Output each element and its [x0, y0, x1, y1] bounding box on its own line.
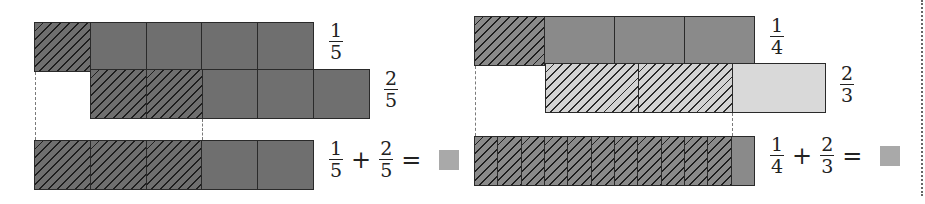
shaded-cell: [708, 137, 731, 185]
left-row1-bar: [34, 22, 314, 72]
cell: [733, 64, 825, 112]
fraction-label-1-4: 1 4: [770, 16, 784, 57]
cell: [545, 17, 615, 65]
shaded-cell: [35, 141, 91, 189]
shaded-cell: [546, 64, 639, 112]
denominator: 3: [820, 157, 834, 176]
shaded-cell: [475, 17, 545, 65]
numerator: 2: [384, 69, 398, 88]
left-equation: 1 5 + 2 5 =: [329, 139, 459, 180]
left-row2-bar: [90, 69, 370, 119]
shaded-cell: [522, 137, 545, 185]
fraction-label-1-5: 1 5: [329, 21, 343, 62]
cell: [147, 23, 203, 71]
cell: [732, 137, 754, 185]
addend-2: 2 3: [820, 135, 834, 176]
alignment-guide: [732, 113, 733, 136]
cell: [202, 23, 258, 71]
denominator: 5: [329, 43, 343, 62]
shaded-cell: [91, 70, 147, 118]
shaded-cell: [592, 137, 615, 185]
numerator: 2: [820, 135, 834, 154]
numerator: 1: [770, 16, 784, 35]
addend-1: 1 4: [770, 135, 784, 176]
alignment-guide: [475, 66, 476, 136]
shaded-cell: [545, 137, 568, 185]
right-equation: 1 4 + 2 3 =: [770, 135, 900, 176]
addend-2: 2 5: [379, 139, 393, 180]
numerator: 1: [329, 139, 343, 158]
shaded-cell: [639, 64, 732, 112]
denominator: 5: [379, 161, 393, 180]
fraction-label-2-3: 2 3: [840, 64, 854, 105]
shaded-cell: [35, 23, 91, 71]
left-sum-bar: [34, 140, 314, 190]
right-row1-bar: [474, 16, 755, 66]
shaded-cell: [475, 137, 498, 185]
fraction-label-2-5: 2 5: [384, 69, 398, 110]
equals-sign: =: [842, 144, 862, 168]
denominator: 3: [840, 86, 854, 105]
plus-sign: +: [792, 144, 812, 168]
alignment-guide: [35, 72, 36, 140]
shaded-cell: [615, 137, 638, 185]
cell: [258, 23, 313, 71]
denominator: 5: [384, 91, 398, 110]
shaded-cell: [147, 141, 203, 189]
numerator: 2: [379, 139, 393, 158]
plus-sign: +: [351, 148, 371, 172]
numerator: 1: [329, 21, 343, 40]
cell: [203, 70, 259, 118]
cell: [258, 70, 314, 118]
shaded-cell: [147, 70, 203, 118]
shaded-cell: [662, 137, 685, 185]
cell: [314, 70, 369, 118]
answer-box[interactable]: [880, 146, 900, 166]
cell: [258, 141, 313, 189]
shaded-cell: [638, 137, 661, 185]
answer-box[interactable]: [439, 150, 459, 170]
alignment-guide: [202, 119, 203, 140]
numerator: 2: [840, 64, 854, 83]
denominator: 4: [770, 157, 784, 176]
right-row2-bar: [545, 63, 826, 113]
right-sum-bar: [474, 136, 755, 186]
numerator: 1: [770, 135, 784, 154]
cell: [615, 17, 685, 65]
cell: [91, 23, 147, 71]
shaded-cell: [568, 137, 591, 185]
denominator: 5: [329, 161, 343, 180]
shaded-cell: [91, 141, 147, 189]
shaded-cell: [685, 137, 708, 185]
dotted-divider: [921, 0, 923, 196]
denominator: 4: [770, 38, 784, 57]
addend-1: 1 5: [329, 139, 343, 180]
cell: [685, 17, 754, 65]
shaded-cell: [498, 137, 521, 185]
cell: [202, 141, 258, 189]
equals-sign: =: [401, 148, 421, 172]
